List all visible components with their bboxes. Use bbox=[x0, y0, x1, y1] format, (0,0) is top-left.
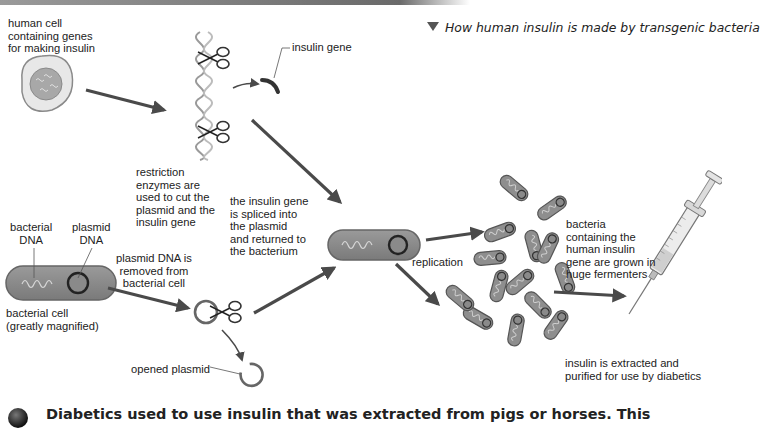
dna-helix-icon bbox=[196, 32, 212, 160]
arrow-replication-upper bbox=[426, 232, 482, 240]
arrow-replication-lower bbox=[396, 264, 438, 304]
label-spliced: the insulin gene is spliced into the pla… bbox=[230, 195, 308, 258]
label-plasmid-dna: plasmid DNA bbox=[72, 221, 111, 246]
caption-triangle-icon bbox=[427, 22, 439, 31]
arrow-gene-to-bacterium bbox=[252, 120, 340, 202]
label-plasmid-removed: plasmid DNA is removed from bacterial ce… bbox=[116, 252, 192, 290]
footer-bullet-icon bbox=[8, 408, 28, 428]
label-insulin-gene: insulin gene bbox=[292, 41, 352, 54]
plasmid-icon bbox=[195, 301, 217, 323]
insulin-gene-leader bbox=[274, 48, 290, 78]
caption-text: How human insulin is made by transgenic … bbox=[445, 20, 760, 35]
label-replication: replication bbox=[412, 256, 463, 269]
bacteria-colony-icon bbox=[444, 173, 577, 347]
arrow-to-opened-plasmid bbox=[222, 330, 242, 360]
figure-caption: How human insulin is made by transgenic … bbox=[427, 20, 760, 35]
label-bacterial-cell: bacterial cell (greatly magnified) bbox=[6, 307, 99, 332]
label-restriction-enzymes: restriction enzymes are used to cut the … bbox=[136, 166, 215, 229]
insulin-gene-fragment-icon bbox=[262, 80, 278, 92]
recombinant-bacterium-icon bbox=[328, 230, 420, 260]
arrow-cell-to-dna bbox=[86, 90, 164, 110]
label-opened-plasmid: opened plasmid bbox=[131, 363, 210, 376]
arrow-to-plasmid bbox=[108, 288, 188, 308]
label-insulin-extracted: insulin is extracted and purified for us… bbox=[565, 357, 701, 382]
label-bacterial-dna: bacterial DNA bbox=[10, 221, 52, 246]
arrow-to-insulin-gene bbox=[233, 84, 258, 89]
opened-plasmid-leader bbox=[210, 367, 240, 374]
arrow-plasmid-to-bacterium bbox=[254, 268, 334, 313]
label-bacteria-grown: bacteria containing the human insulin ge… bbox=[566, 218, 656, 281]
footer-paragraph: Diabetics used to use insulin that was e… bbox=[46, 406, 651, 422]
arrow-to-syringe bbox=[554, 292, 624, 296]
label-human-cell: human cell containing genes for making i… bbox=[8, 17, 95, 55]
bacterial-cell-icon bbox=[6, 266, 116, 300]
human-cell-icon bbox=[22, 55, 73, 111]
opened-plasmid-icon bbox=[237, 360, 267, 389]
